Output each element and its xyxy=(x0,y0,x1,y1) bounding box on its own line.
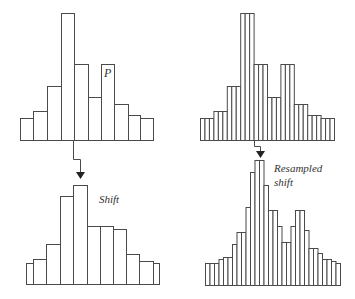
shift-arrows xyxy=(74,141,266,180)
histogram-bar xyxy=(154,264,160,285)
histogram-bar xyxy=(224,258,229,286)
histogram-shifted xyxy=(27,186,160,285)
histogram-bar xyxy=(327,260,332,286)
histogram-bar xyxy=(205,119,209,141)
histogram-bar xyxy=(326,119,330,141)
histogram-bar xyxy=(251,173,256,286)
histogram-bar xyxy=(300,211,305,286)
histogram-bar xyxy=(294,105,298,141)
histogram-bar xyxy=(246,208,251,286)
histogram-bar xyxy=(74,186,88,285)
histogram-bar xyxy=(245,14,249,141)
histogram-bar xyxy=(228,258,233,286)
histogram-bar xyxy=(282,243,287,286)
label-shift: Shift xyxy=(99,193,120,205)
histogram-bar xyxy=(47,245,61,285)
histogram-bar xyxy=(114,230,127,285)
histogram-bar xyxy=(330,119,334,141)
histogram-bar xyxy=(317,116,321,141)
histogram-bar xyxy=(259,65,263,141)
histogram-bar xyxy=(227,87,231,141)
label-resampled: Resampled xyxy=(273,162,323,174)
histogram-bar xyxy=(89,98,102,141)
histogram-bar xyxy=(272,98,276,141)
histogram-bar xyxy=(308,116,312,141)
histogram-bar xyxy=(140,262,154,285)
histogram-bar xyxy=(214,112,218,141)
histogram-bar xyxy=(127,255,140,285)
histogram-resampled-shifted xyxy=(206,161,341,286)
label-resampled-shift: shift xyxy=(274,176,294,188)
histogram-bar xyxy=(101,227,114,285)
histogram-bar xyxy=(218,112,222,141)
histogram-bar xyxy=(215,264,220,286)
histogram-bar xyxy=(237,233,242,286)
histogram-bar xyxy=(48,87,62,141)
arrow-left-line xyxy=(74,141,81,174)
histogram-bar xyxy=(281,65,285,141)
histogram-bar xyxy=(285,65,289,141)
histogram-bar xyxy=(75,65,89,141)
histogram-bar xyxy=(241,14,245,141)
histogram-bar xyxy=(287,243,292,286)
histogram-bar xyxy=(296,211,301,286)
histogram-bar xyxy=(233,245,238,286)
histogram-resampled xyxy=(201,14,335,141)
histogram-bar xyxy=(27,264,34,285)
histogram-bar xyxy=(34,112,48,141)
histogram-bar xyxy=(291,227,296,286)
histogram-bar xyxy=(250,14,254,141)
histogram-bar xyxy=(201,119,205,141)
histogram-bar xyxy=(264,186,269,286)
histogram-bar xyxy=(321,119,325,141)
histogram-bar xyxy=(236,87,240,141)
histogram-bar xyxy=(309,249,314,286)
label-p: P xyxy=(103,66,112,80)
histogram-bar xyxy=(210,264,215,286)
histogram-bar xyxy=(62,14,75,141)
histogram-bar xyxy=(290,65,294,141)
histogram-bar xyxy=(129,116,141,141)
histogram-bar xyxy=(263,65,267,141)
arrow-down-icon xyxy=(76,172,85,179)
histogram-bar xyxy=(276,98,280,141)
histogram-bar xyxy=(232,87,236,141)
histogram-bar xyxy=(21,119,34,141)
histogram-bar xyxy=(88,227,101,285)
histogram-original xyxy=(21,14,154,141)
histogram-bar xyxy=(34,260,47,285)
histogram-bar xyxy=(223,112,227,141)
histogram-bar xyxy=(332,262,337,286)
histogram-bar xyxy=(219,260,224,286)
histogram-bar xyxy=(312,116,316,141)
histogram-bar xyxy=(255,161,260,286)
histogram-bar xyxy=(305,231,310,286)
histogram-bar xyxy=(141,119,154,141)
histogram-bar xyxy=(278,227,283,286)
arrow-down-icon xyxy=(256,151,265,158)
histogram-bar xyxy=(209,119,213,141)
histogram-bar xyxy=(303,105,307,141)
histogram-bar xyxy=(314,249,319,286)
histogram-bar xyxy=(260,161,265,286)
histogram-diagram: P Shift Resampled shift xyxy=(0,0,355,299)
histogram-bar xyxy=(323,260,328,286)
histogram-bar xyxy=(299,105,303,141)
arrow-right-line xyxy=(255,141,261,153)
histogram-bar xyxy=(268,98,272,141)
histogram-bar xyxy=(242,233,247,286)
histogram-bar xyxy=(115,105,129,141)
histogram-bar xyxy=(206,264,211,286)
histogram-bar xyxy=(336,264,341,286)
histogram-bar xyxy=(61,197,74,285)
histogram-bar xyxy=(273,211,278,286)
histogram-bar xyxy=(318,254,323,286)
histogram-bar xyxy=(269,211,274,286)
histogram-bar xyxy=(254,65,258,141)
